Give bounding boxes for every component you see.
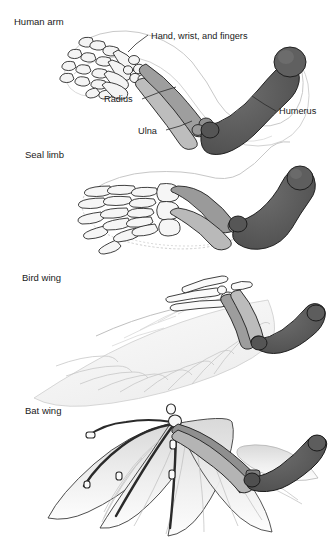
- callout-label-humerus: Humerus: [279, 106, 317, 116]
- panel-title-human-arm: Human arm: [14, 16, 64, 27]
- panel-title-bat-wing: Bat wing: [25, 405, 61, 416]
- callout-label-hand-wrist-fingers: Hand, wrist, and fingers: [151, 31, 248, 41]
- callout-label-radius: Radius: [104, 94, 133, 104]
- homologous-limbs-figure: Human arm: [0, 0, 329, 553]
- panel-title-bird-wing: Bird wing: [22, 272, 61, 283]
- panel-title-seal-limb: Seal limb: [25, 149, 64, 160]
- callout-label-ulna: Ulna: [138, 126, 158, 136]
